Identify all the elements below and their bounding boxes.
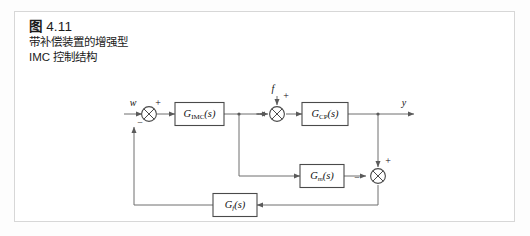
block-gm-label: Gm(s) [310, 170, 334, 183]
summing-junction-feedback [371, 169, 386, 184]
sign-input-sum-left: − [137, 117, 143, 128]
branch-node-output [376, 112, 379, 115]
summing-junction-input [142, 107, 157, 122]
sign-disturbance-sum-top: + [283, 90, 289, 101]
branch-node-gimc [237, 112, 240, 115]
sign-right-sum-top: + [385, 155, 391, 166]
figure-page: 图 4.11 带补偿装置的增强型 IMC 控制结构 [0, 0, 530, 236]
block-gf-label: Gf(s) [225, 199, 246, 212]
signal-label-reference: w [130, 97, 137, 108]
sign-right-sum-left: − [354, 172, 360, 183]
signal-label-disturbance: f [272, 83, 276, 94]
block-diagram: GIMC(s) GCP(s) Gm(s) Gf(s) w f y + − + +… [0, 0, 530, 236]
signal-label-output: y [401, 97, 407, 108]
sign-input-sum-top: + [155, 97, 161, 108]
summing-junction-disturbance [270, 107, 285, 122]
